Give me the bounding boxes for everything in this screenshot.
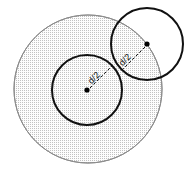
center-circle-center-dot bbox=[84, 87, 89, 92]
upper-right-circle-center-dot bbox=[144, 41, 149, 46]
circles-diagram-figure: d/2 d/2 bbox=[0, 0, 191, 174]
diagram-canvas: d/2 d/2 bbox=[0, 0, 191, 174]
